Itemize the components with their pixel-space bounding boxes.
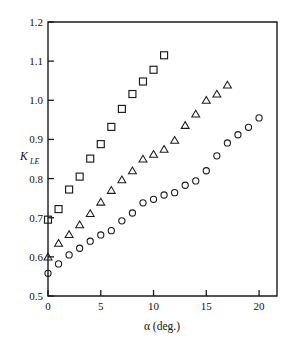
x-tick-label: 10 — [148, 300, 160, 312]
y-tick-label: 0.7 — [29, 212, 43, 224]
x-tick-label: 20 — [254, 300, 266, 312]
plot-background — [0, 0, 295, 345]
y-tick-label: 0.5 — [29, 290, 43, 302]
chart-figure: 05101520 0.50.60.70.80.91.01.11.2 α (deg… — [0, 0, 295, 345]
x-tick-label: 5 — [98, 300, 104, 312]
y-tick-label: 1.0 — [29, 94, 43, 106]
y-tick-label: 1.1 — [29, 55, 43, 67]
x-tick-label: 0 — [45, 300, 51, 312]
y-tick-label: 0.9 — [29, 133, 43, 145]
x-tick-label: 15 — [201, 300, 213, 312]
y-tick-label: 0.8 — [29, 173, 43, 185]
y-tick-label: 0.6 — [29, 251, 43, 263]
y-axis-title-sub: LE — [29, 157, 39, 166]
y-axis-title-main: K — [19, 150, 29, 162]
x-axis-title: α (deg.) — [144, 320, 180, 333]
y-tick-label: 1.2 — [29, 16, 43, 28]
scatter-plot-svg: 05101520 0.50.60.70.80.91.01.11.2 α (deg… — [0, 0, 295, 345]
